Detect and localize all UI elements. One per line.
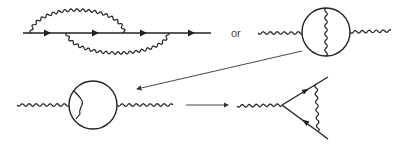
photon-self-energy-vertex-diagram xyxy=(17,81,173,129)
photon-arc-bottom xyxy=(66,33,169,54)
fermion-loop xyxy=(69,81,117,129)
external-photon-out xyxy=(350,30,391,34)
internal-photon-vertical xyxy=(325,8,327,56)
external-photon-in xyxy=(17,104,69,107)
external-photon-in xyxy=(258,32,302,35)
internal-photon-exchange xyxy=(315,84,319,131)
fermion-arrow-2 xyxy=(92,30,99,37)
external-photon xyxy=(237,104,282,107)
fermion-arrow-upper xyxy=(302,89,310,95)
external-photon-out xyxy=(117,104,173,107)
or-separator: or xyxy=(231,27,241,39)
feynman-diagram-figure: or xyxy=(0,0,407,147)
fermion-arrow-1 xyxy=(44,30,51,37)
internal-photon-corner xyxy=(74,91,83,119)
photon-self-energy-vertical-diagram xyxy=(258,8,391,56)
rainbow-fermion-diagram xyxy=(23,9,211,55)
fermion-arrow-4 xyxy=(188,30,195,37)
fermion-arrow-3 xyxy=(140,30,147,37)
connector-arrow-diagonal xyxy=(137,51,302,89)
photon-arc-top xyxy=(30,9,125,33)
vertex-triangle-diagram xyxy=(237,77,328,139)
